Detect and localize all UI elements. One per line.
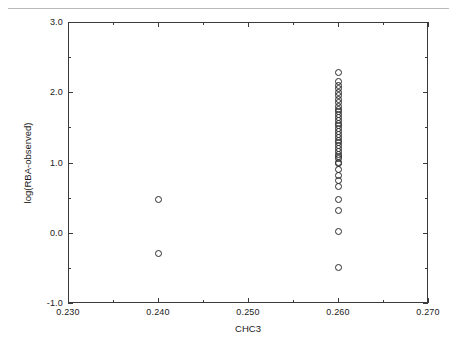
y-axis-tick-label: -1.0 bbox=[32, 298, 63, 308]
y-axis-tick-right bbox=[423, 303, 428, 304]
x-axis-minor-tick-top bbox=[113, 22, 114, 25]
data-point-marker bbox=[155, 250, 162, 257]
x-axis-tick bbox=[428, 298, 429, 303]
y-axis-tick bbox=[68, 163, 73, 164]
x-axis-tick-top bbox=[428, 22, 429, 27]
x-axis-minor-tick bbox=[113, 300, 114, 303]
x-axis-tick-label: 0.230 bbox=[56, 307, 80, 317]
y-axis-tick bbox=[68, 233, 73, 234]
scan-artifact-line bbox=[8, 8, 449, 9]
x-axis-tick-top bbox=[158, 22, 159, 27]
y-axis-tick bbox=[68, 303, 73, 304]
data-point-marker bbox=[155, 196, 162, 203]
x-axis-minor-tick-top bbox=[203, 22, 204, 25]
scatter-plot-figure: 0.2300.2400.2500.2600.270-1.00.01.02.03.… bbox=[0, 0, 457, 344]
x-axis-minor-tick bbox=[203, 300, 204, 303]
x-axis-minor-tick-top bbox=[293, 22, 294, 25]
y-axis-minor-tick bbox=[68, 127, 71, 128]
x-axis-tick-label: 0.250 bbox=[236, 307, 260, 317]
y-axis-tick bbox=[68, 22, 73, 23]
y-axis-minor-tick-right bbox=[425, 268, 428, 269]
x-axis-tick bbox=[158, 298, 159, 303]
x-axis-tick-label: 0.240 bbox=[146, 307, 170, 317]
data-point-marker bbox=[335, 183, 342, 190]
y-axis-minor-tick-right bbox=[425, 127, 428, 128]
plot-frame bbox=[68, 22, 428, 303]
data-point-marker bbox=[335, 196, 342, 203]
y-axis-minor-tick-right bbox=[425, 198, 428, 199]
x-axis-tick bbox=[248, 298, 249, 303]
y-axis-tick-right bbox=[423, 163, 428, 164]
x-axis-tick bbox=[338, 298, 339, 303]
y-axis-minor-tick bbox=[68, 57, 71, 58]
data-point-marker bbox=[335, 264, 342, 271]
y-axis-tick-right bbox=[423, 22, 428, 23]
y-axis-title: log(RBA-observed) bbox=[22, 122, 33, 203]
y-axis-minor-tick-right bbox=[425, 57, 428, 58]
x-axis-title: CHC3 bbox=[235, 323, 261, 334]
data-point-marker bbox=[335, 228, 342, 235]
y-axis-tick-label: 3.0 bbox=[32, 17, 63, 27]
x-axis-minor-tick-top bbox=[383, 22, 384, 25]
y-axis-tick-label: 1.0 bbox=[32, 158, 63, 168]
y-axis-tick bbox=[68, 92, 73, 93]
x-axis-tick-top bbox=[248, 22, 249, 27]
data-point-marker bbox=[335, 69, 342, 76]
x-axis-tick-label: 0.270 bbox=[416, 307, 440, 317]
y-axis-minor-tick bbox=[68, 268, 71, 269]
x-axis-minor-tick bbox=[383, 300, 384, 303]
y-axis-tick-label: 0.0 bbox=[32, 228, 63, 238]
y-axis-minor-tick bbox=[68, 198, 71, 199]
y-axis-tick-right bbox=[423, 92, 428, 93]
y-axis-tick-right bbox=[423, 233, 428, 234]
x-axis-tick-top bbox=[338, 22, 339, 27]
x-axis-tick-label: 0.260 bbox=[326, 307, 350, 317]
y-axis-tick-label: 2.0 bbox=[32, 87, 63, 97]
x-axis-minor-tick bbox=[293, 300, 294, 303]
data-point-marker bbox=[335, 159, 342, 166]
